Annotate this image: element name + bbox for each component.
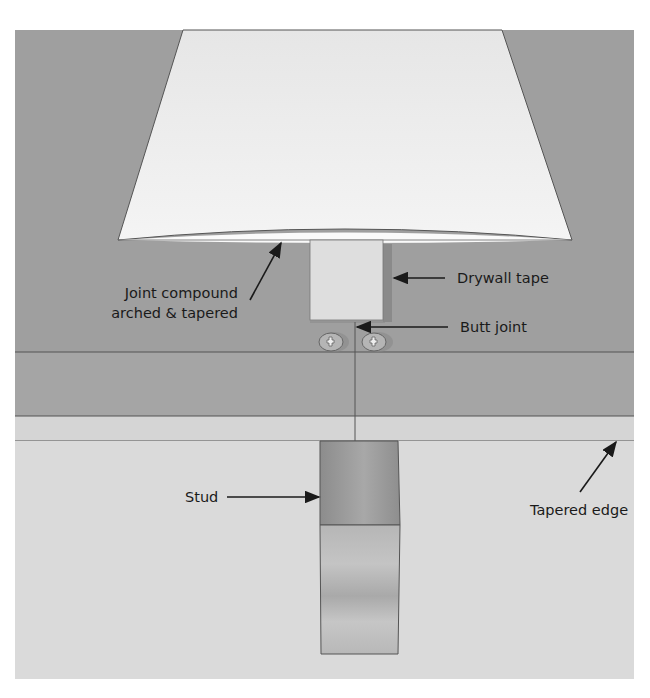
- label-butt-joint: Butt joint: [460, 319, 527, 335]
- tapered-edge-strip: [15, 416, 634, 441]
- screw-left-icon: [319, 332, 349, 352]
- drywall-tape: [310, 240, 392, 322]
- stud: [320, 441, 400, 654]
- label-tapered-edge: Tapered edge: [529, 502, 628, 518]
- label-drywall-tape: Drywall tape: [457, 270, 549, 286]
- joint-compound: [118, 30, 572, 240]
- drywall-face: [15, 352, 634, 416]
- label-joint-compound-2: arched & tapered: [111, 305, 238, 321]
- label-stud: Stud: [185, 489, 218, 505]
- drywall-joint-diagram: Joint compound arched & tapered Drywall …: [0, 0, 650, 698]
- screw-right-icon: [362, 332, 393, 352]
- label-joint-compound-1: Joint compound: [124, 285, 238, 301]
